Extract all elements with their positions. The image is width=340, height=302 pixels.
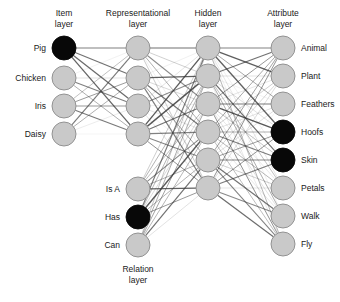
node-hidden-h6[interactable] xyxy=(196,176,220,200)
node-label-attribute-hoofs: Hoofs xyxy=(301,127,323,137)
node-label-relation-is-a: Is A xyxy=(106,184,121,194)
header-relation-line2: layer xyxy=(129,275,148,285)
node-item-iris[interactable] xyxy=(52,94,76,118)
node-relation-can[interactable] xyxy=(126,233,150,257)
node-hidden-h5[interactable] xyxy=(196,148,220,172)
node-label-item-chicken: Chicken xyxy=(15,73,46,83)
node-label-attribute-animal: Animal xyxy=(301,43,327,53)
node-label-relation-has: Has xyxy=(105,212,120,222)
network-diagram: PigChickenIrisDaisyIs AHasCanAnimalPlant… xyxy=(0,0,340,302)
nodes-group: PigChickenIrisDaisyIs AHasCanAnimalPlant… xyxy=(15,36,334,257)
node-relation-is-a[interactable] xyxy=(126,177,150,201)
node-label-attribute-petals: Petals xyxy=(301,183,325,193)
edge-relation-to-hidden xyxy=(142,59,204,233)
node-hidden-h4[interactable] xyxy=(196,120,220,144)
node-representational-r2[interactable] xyxy=(126,66,150,90)
node-label-attribute-walk: Walk xyxy=(301,211,320,221)
node-hidden-h3[interactable] xyxy=(196,92,220,116)
edges-group xyxy=(72,48,279,237)
node-attribute-feathers[interactable] xyxy=(271,92,295,116)
edge-representational-to-hidden xyxy=(144,58,201,150)
header-attribute-line2: layer xyxy=(274,19,293,29)
node-item-daisy[interactable] xyxy=(52,122,76,146)
header-attribute-line1: Attribute xyxy=(267,8,299,18)
node-attribute-skin[interactable] xyxy=(271,148,295,172)
node-label-attribute-fly: Fly xyxy=(301,239,313,249)
node-label-item-daisy: Daisy xyxy=(25,129,47,139)
network-diagram-canvas: PigChickenIrisDaisyIs AHasCanAnimalPlant… xyxy=(0,0,340,302)
header-item-line2: layer xyxy=(55,19,74,29)
node-attribute-walk[interactable] xyxy=(271,204,295,228)
node-item-chicken[interactable] xyxy=(52,66,76,90)
header-relation-line1: Relation xyxy=(122,264,153,274)
node-attribute-hoofs[interactable] xyxy=(271,120,295,144)
node-attribute-animal[interactable] xyxy=(271,36,295,60)
node-label-attribute-skin: Skin xyxy=(301,155,318,165)
node-attribute-fly[interactable] xyxy=(271,232,295,256)
node-attribute-petals[interactable] xyxy=(271,176,295,200)
header-hidden-line2: layer xyxy=(199,19,218,29)
node-label-attribute-feathers: Feathers xyxy=(301,99,335,109)
node-relation-has[interactable] xyxy=(126,205,150,229)
node-representational-r4[interactable] xyxy=(126,122,150,146)
header-representational-line1: Representational xyxy=(106,8,170,18)
node-hidden-h1[interactable] xyxy=(196,36,220,60)
node-hidden-h2[interactable] xyxy=(196,64,220,88)
node-label-relation-can: Can xyxy=(104,240,120,250)
header-item-line1: Item xyxy=(56,8,73,18)
header-representational-line2: layer xyxy=(129,19,148,29)
node-representational-r3[interactable] xyxy=(126,94,150,118)
node-label-attribute-plant: Plant xyxy=(301,71,321,81)
node-attribute-plant[interactable] xyxy=(271,64,295,88)
column-headers-group: Item layer Representational layer Hidden… xyxy=(55,8,299,285)
node-label-item-iris: Iris xyxy=(35,101,46,111)
node-item-pig[interactable] xyxy=(52,36,76,60)
node-label-item-pig: Pig xyxy=(34,43,47,53)
node-representational-r1[interactable] xyxy=(126,36,150,60)
header-hidden-line1: Hidden xyxy=(195,8,222,18)
